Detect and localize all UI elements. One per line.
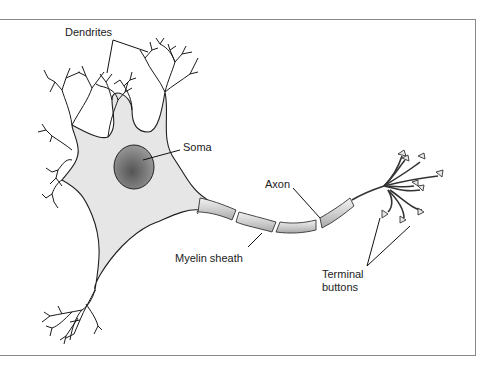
label-dendrites: Dendrites bbox=[65, 26, 112, 39]
dendrites-left bbox=[38, 124, 72, 208]
label-soma: Soma bbox=[183, 141, 212, 154]
label-axon: Axon bbox=[265, 178, 290, 191]
dendrites-leader bbox=[107, 40, 148, 73]
label-myelin-sheath: Myelin sheath bbox=[175, 252, 243, 265]
label-terminal-buttons-line2: buttons bbox=[322, 281, 358, 294]
nucleus bbox=[114, 145, 154, 189]
terminal-leader bbox=[367, 218, 410, 266]
axon-terminal-branches bbox=[352, 156, 438, 218]
neuron-diagram bbox=[0, 0, 490, 375]
dendrites-lower bbox=[42, 290, 102, 344]
myelin-sheath-segments bbox=[198, 198, 354, 233]
label-terminal-buttons-line1: Terminal bbox=[322, 268, 364, 281]
myelin-leader bbox=[248, 233, 262, 247]
axon-leader bbox=[293, 188, 320, 218]
